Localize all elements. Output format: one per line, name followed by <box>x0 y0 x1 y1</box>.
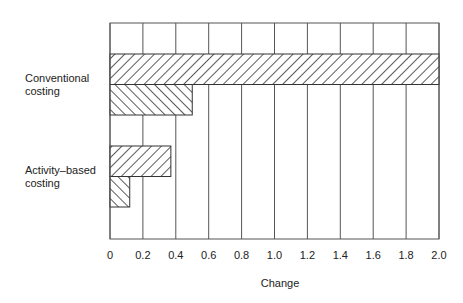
category-label-line: costing <box>25 177 96 190</box>
x-tick-label: 0.8 <box>230 249 254 262</box>
category-label-line: Conventional <box>25 72 89 85</box>
x-tick-label: 0.6 <box>197 249 221 262</box>
bar <box>110 85 192 116</box>
x-tick-label: 0 <box>98 249 122 262</box>
category-label: Activity–basedcosting <box>25 164 96 190</box>
x-tick-label: 2.0 <box>427 249 451 262</box>
category-label: Conventionalcosting <box>25 72 89 98</box>
x-tick-label: 1.2 <box>295 249 319 262</box>
x-tick-label: 0.4 <box>164 249 188 262</box>
x-tick-label: 0.2 <box>131 249 155 262</box>
category-label-line: costing <box>25 85 89 98</box>
x-tick-label: 1.0 <box>263 249 287 262</box>
x-tick-label: 1.6 <box>361 249 385 262</box>
x-tick-label: 1.8 <box>394 249 418 262</box>
x-axis-label: Change <box>250 277 310 290</box>
x-tick-label: 1.4 <box>328 249 352 262</box>
bar <box>110 54 439 85</box>
bar <box>110 177 130 208</box>
bar <box>110 146 171 177</box>
category-label-line: Activity–based <box>25 164 96 177</box>
